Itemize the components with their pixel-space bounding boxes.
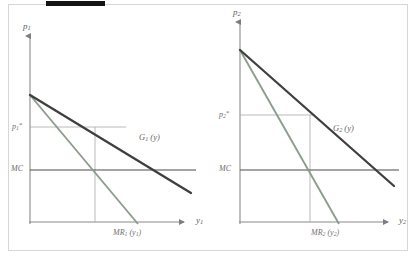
price-label-star-market-2: *	[226, 109, 229, 116]
demand-curve-label-market-2: G2 (y)	[333, 124, 354, 133]
mr-curve-label-market-1: MR1 (y1)	[113, 229, 141, 238]
price-label-market-2: p2*	[219, 110, 229, 120]
y-axis-label-sub-market-2: 2	[238, 10, 241, 17]
mc-label-market-1: MC	[11, 165, 23, 173]
mr-curve-label-sub-market-2: 2	[323, 231, 326, 237]
y-axis-label-sub-market-1: 1	[28, 24, 31, 31]
economics-figure: p1 y1 p1* MC G1 (y) MR1 (y1) p2 y2 p2* M…	[0, 0, 417, 260]
demand-curve-label-arg-market-1: (y)	[150, 132, 159, 142]
y-axis-label-market-1: p1	[23, 22, 31, 32]
demand-curve-label-sub-market-1: 1	[145, 136, 148, 142]
x-axis-label-sub-market-1: 1	[200, 218, 203, 225]
price-discrimination-plot	[0, 0, 417, 260]
price-label-market-1: p1*	[12, 122, 22, 132]
panel-market-1	[29, 36, 196, 224]
x-axis-label-market-2: y2	[399, 216, 406, 226]
mc-label-market-2: MC	[219, 165, 231, 173]
mr-curve-label-market-2: MR2 (y2)	[311, 229, 339, 238]
demand-curve-market-2	[240, 50, 394, 186]
demand-curve-label-market-1: G1 (y)	[139, 133, 160, 142]
panel-market-2	[239, 22, 399, 224]
mr-curve-label-base-market-2: MR	[311, 228, 323, 237]
demand-curve-market-1	[30, 95, 191, 193]
demand-curve-label-arg-market-2: (y)	[344, 123, 353, 133]
mr-curve-label-arg-close-market-1: )	[139, 228, 142, 237]
marginal-revenue-curve-market-2	[240, 50, 339, 224]
mr-curve-label-arg-close-market-2: )	[337, 228, 340, 237]
marginal-revenue-curve-market-1	[30, 95, 138, 224]
x-axis-label-sub-market-2: 2	[403, 218, 406, 225]
mr-curve-label-base-market-1: MR	[113, 228, 125, 237]
demand-curve-label-sub-market-2: 2	[339, 127, 342, 133]
x-axis-label-market-1: y1	[196, 216, 203, 226]
mr-curve-label-sub-market-1: 1	[125, 231, 128, 237]
y-axis-label-market-2: p2	[233, 8, 241, 18]
price-label-star-market-1: *	[19, 121, 22, 128]
page-canvas: p1 y1 p1* MC G1 (y) MR1 (y1) p2 y2 p2* M…	[0, 0, 417, 260]
